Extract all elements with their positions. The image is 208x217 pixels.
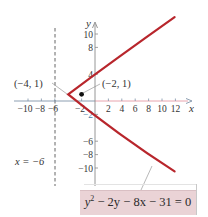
x-tick-label: 4 — [119, 104, 124, 114]
equation-rest: − 2y − 8x − 31 = 0 — [94, 195, 191, 209]
x-tick-label: 6 — [133, 104, 138, 114]
y-axis-label: y — [85, 17, 91, 29]
equation-text: y2 − 2y − 8x − 31 = 0 — [80, 194, 196, 210]
equation-box: y2 − 2y − 8x − 31 = 0 — [80, 190, 196, 215]
x-tick-label: 12 — [171, 104, 181, 114]
parabola-curve — [68, 17, 174, 171]
focus-leader-line — [83, 84, 100, 93]
y-tick-label: −8 — [83, 150, 93, 160]
y-tick-label: −6 — [83, 137, 93, 147]
y-tick-label: 8 — [88, 43, 93, 53]
vertex-leader-line — [52, 83, 67, 94]
x-tick-label: −6 — [48, 104, 58, 114]
x-axis-label: x — [188, 102, 194, 114]
y-tick-label: −10 — [78, 164, 93, 174]
equation-leader-line — [141, 166, 152, 190]
x-tick-label: 2 — [106, 104, 111, 114]
vertex-label: (−4, 1) — [14, 78, 43, 90]
directrix-label: x = −6 — [14, 156, 45, 167]
equation-frame-right — [196, 184, 197, 215]
x-tick-label: 10 — [157, 104, 167, 114]
equation-frame-top — [84, 184, 196, 185]
y-tick-label: 10 — [84, 30, 94, 40]
x-tick-label: −8 — [35, 104, 45, 114]
x-tick-label: −10 — [18, 104, 33, 114]
x-tick-label: 8 — [146, 104, 151, 114]
focus-label: (−2, 1) — [102, 78, 131, 90]
